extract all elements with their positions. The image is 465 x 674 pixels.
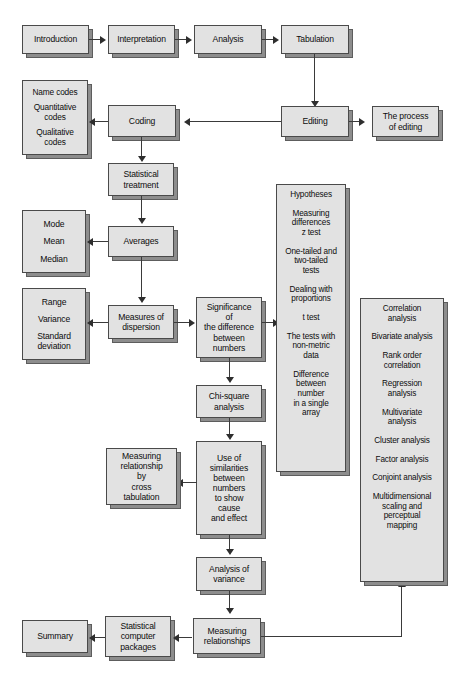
node-significance-line4: between — [204, 333, 254, 343]
node-name-codes: Name codes — [25, 88, 85, 98]
node-use-of-similarities-line7: and effect — [210, 513, 248, 523]
node-process-of-editing[interactable]: The process of editing — [372, 106, 439, 137]
connector-tabulation-editing — [314, 54, 315, 103]
hypotheses-item-2[interactable]: Dealing with proportions — [280, 285, 342, 304]
node-cross-tabulation-line1: Measuring — [120, 451, 162, 461]
hypotheses-item-4-line1: non-metric — [280, 341, 342, 351]
panel-hypotheses[interactable]: Hypotheses Measuring differences z test … — [276, 184, 346, 472]
connector-measuring-correlation-v — [401, 586, 402, 637]
arrowhead-editing-coding — [184, 118, 190, 126]
node-cross-tabulation-line3: by — [120, 471, 162, 481]
arrowhead-intro-interp — [100, 36, 106, 44]
correlation-item-1-line0: Rank order — [364, 351, 440, 361]
correlation-item-7-line1: scaling and — [364, 502, 440, 512]
arrowhead-dispersion-significance — [189, 319, 195, 327]
node-introduction[interactable]: Introduction — [22, 25, 89, 54]
node-averages[interactable]: Averages — [108, 226, 174, 257]
arrowhead-anova-measuring — [226, 608, 234, 614]
hypotheses-item-0-line0: Measuring — [280, 209, 342, 219]
node-statistical-treatment[interactable]: Statistical treatment — [108, 163, 174, 196]
correlation-item-7-line0: Multidimensional — [364, 492, 440, 502]
correlation-item-2-line1: analysis — [364, 389, 440, 399]
arrowhead-averages-dispersion — [138, 297, 146, 303]
correlation-item-3-line1: analysis — [364, 417, 440, 427]
node-tabulation[interactable]: Tabulation — [281, 25, 349, 54]
arrowhead-dispersion-list — [87, 319, 93, 327]
node-name-codes-group[interactable]: Name codes Quantitative codes Qualitativ… — [22, 80, 88, 155]
correlation-item-3-line0: Multivariate — [364, 408, 440, 418]
connector-averages-list — [93, 241, 109, 242]
connector-coding-namecodes — [95, 121, 109, 122]
correlation-item-4-line0: Cluster analysis — [364, 436, 440, 446]
arrowhead-editing-process — [359, 118, 365, 126]
node-summary[interactable]: Summary — [22, 620, 88, 653]
node-chi-square[interactable]: Chi-square analysis — [196, 385, 262, 418]
node-measures-of-dispersion[interactable]: Measures of dispersion — [108, 305, 174, 339]
node-tabulation-label: Tabulation — [296, 34, 334, 44]
arrowhead-similarities-anova — [226, 549, 234, 555]
node-measuring-relationships[interactable]: Measuring relationships — [193, 618, 261, 654]
arrowhead-averages-list — [87, 238, 93, 246]
node-use-of-similarities[interactable]: Use of similarities between numbers to s… — [196, 441, 262, 535]
node-measuring-relationships-line2: relationships — [204, 636, 250, 646]
node-analysis-of-variance[interactable]: Analysis of variance — [196, 557, 262, 591]
node-use-of-similarities-line6: cause — [210, 503, 248, 513]
hypotheses-item-4[interactable]: The tests with non-metric data — [280, 332, 342, 361]
correlation-item-7-line3: mapping — [364, 521, 440, 531]
node-interpretation-label: Interpretation — [117, 34, 166, 44]
hypotheses-item-5-line4: array — [280, 408, 342, 418]
correlation-item-2[interactable]: Regression analysis — [364, 379, 440, 398]
correlation-item-6[interactable]: Conjoint analysis — [364, 473, 440, 483]
node-coding[interactable]: Coding — [108, 105, 176, 137]
node-coding-label: Coding — [129, 116, 155, 126]
node-significance-line3: the difference — [204, 322, 254, 332]
connector-measuring-correlation-h — [261, 636, 402, 637]
node-quantitative-codes: Quantitative codes — [25, 103, 85, 123]
arrowhead-coding-stattreatment — [138, 156, 146, 162]
node-editing[interactable]: Editing — [281, 106, 349, 137]
hypotheses-item-3-line0: t test — [280, 313, 342, 323]
node-range: Range — [25, 297, 83, 307]
node-cross-tabulation[interactable]: Measuring relationship by cross tabulati… — [106, 448, 177, 505]
panel-correlation[interactable]: Correlation analysis Bivariate analysis … — [360, 298, 444, 582]
correlation-item-7[interactable]: Multidimensional scaling and perceptual … — [364, 492, 440, 531]
hypotheses-item-2-line0: Dealing with — [280, 285, 342, 295]
arrowhead-coding-namecodes — [89, 118, 95, 126]
arrowhead-chisquare-similarities — [226, 434, 234, 440]
correlation-item-5[interactable]: Factor analysis — [364, 455, 440, 465]
node-statistical-computer-packages-line3: packages — [120, 642, 156, 652]
node-variance: Variance — [25, 314, 83, 324]
correlation-item-2-line0: Regression — [364, 379, 440, 389]
hypotheses-item-1-line0: One-tailed and — [280, 247, 342, 257]
correlation-item-7-line2: perceptual — [364, 511, 440, 521]
connector-averages-dispersion — [141, 257, 142, 299]
node-significance[interactable]: Significance of the difference between n… — [196, 297, 262, 358]
node-averages-list[interactable]: Mode Mean Median — [22, 210, 86, 273]
correlation-item-4[interactable]: Cluster analysis — [364, 436, 440, 446]
node-process-of-editing-line2: of editing — [383, 122, 429, 132]
node-mode: Mode — [25, 219, 83, 229]
arrowhead-similarities-crosstab — [177, 479, 183, 487]
node-interpretation[interactable]: Interpretation — [108, 25, 175, 54]
node-dispersion-list[interactable]: Range Variance Standard deviation — [22, 288, 86, 360]
hypotheses-item-5-line2: number — [280, 389, 342, 399]
hypotheses-item-1[interactable]: One-tailed and two-tailed tests — [280, 247, 342, 276]
node-cross-tabulation-line4: cross — [120, 482, 162, 492]
hypotheses-item-1-line2: tests — [280, 266, 342, 276]
node-statistical-treatment-line2: treatment — [123, 180, 158, 190]
node-analysis-of-variance-line1: Analysis of — [209, 564, 249, 574]
hypotheses-item-0[interactable]: Measuring differences z test — [280, 209, 342, 238]
correlation-item-3[interactable]: Multivariate analysis — [364, 408, 440, 427]
node-use-of-similarities-line5: to show — [210, 493, 248, 503]
connector-dispersion-list — [93, 322, 109, 323]
node-analysis[interactable]: Analysis — [194, 25, 262, 54]
hypotheses-item-5[interactable]: Difference between number in a single ar… — [280, 370, 342, 418]
arrowhead-analysis-tabulation — [273, 36, 279, 44]
hypotheses-item-3[interactable]: t test — [280, 313, 342, 323]
correlation-item-0[interactable]: Bivariate analysis — [364, 332, 440, 342]
correlation-item-1[interactable]: Rank order correlation — [364, 351, 440, 370]
node-statistical-computer-packages[interactable]: Statistical computer packages — [105, 616, 171, 657]
correlation-item-0-line0: Bivariate analysis — [364, 332, 440, 342]
node-use-of-similarities-line2: similarities — [210, 463, 248, 473]
arrowhead-significance-chisquare — [226, 377, 234, 383]
